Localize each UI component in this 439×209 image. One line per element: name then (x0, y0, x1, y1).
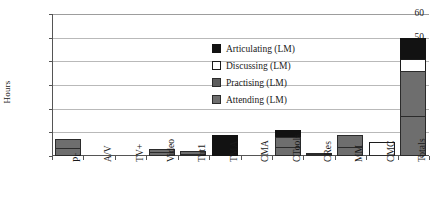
bar-chart: Hours 0102030405060 PrA/VTV+VideoTut1TMA… (0, 0, 439, 209)
x-tick-mark (115, 156, 116, 160)
legend-item: Practising (LM) (212, 74, 352, 91)
x-tick-label: CRes (323, 141, 333, 162)
gridline (52, 38, 429, 39)
legend-label: Articulating (LM) (226, 44, 295, 54)
x-tick-label: Pr (72, 153, 82, 162)
legend-swatch-discussing (212, 61, 221, 70)
x-tick-mark (366, 156, 367, 160)
x-tick-label: MM (354, 145, 364, 162)
x-tick-mark (429, 156, 430, 160)
legend-item: Articulating (LM) (212, 40, 352, 57)
x-tick-mark (241, 156, 242, 160)
y-axis-title: Hours (2, 62, 12, 122)
x-tick-label: A/V (103, 145, 113, 162)
legend-swatch-attending (212, 95, 221, 104)
y-tick-mark (49, 109, 53, 110)
legend-swatch-practising (212, 78, 221, 87)
gridline (52, 14, 429, 15)
y-tick-mark (49, 38, 53, 39)
x-tick-mark (83, 156, 84, 160)
y-tick-label: 60 (394, 9, 424, 19)
x-tick-label: Tut1 (197, 144, 207, 162)
legend-label: Practising (LM) (226, 78, 287, 88)
legend-item: Discussing (LM) (212, 57, 352, 74)
x-tick-label: TV+ (135, 144, 145, 162)
y-tick-mark (49, 132, 53, 133)
x-tick-mark (146, 156, 147, 160)
legend-swatch-articulating (212, 44, 221, 53)
x-tick-label: CMC (386, 141, 396, 162)
gridline (52, 109, 429, 110)
legend-label: Discussing (LM) (226, 61, 291, 71)
x-tick-mark (303, 156, 304, 160)
chart-legend: Articulating (LM)Discussing (LM)Practisi… (212, 40, 352, 108)
legend-item: Attending (LM) (212, 91, 352, 108)
x-tick-label: TMA (229, 141, 239, 162)
x-tick-mark (398, 156, 399, 160)
y-tick-mark (49, 61, 53, 62)
y-tick-mark (49, 85, 53, 86)
x-tick-mark (178, 156, 179, 160)
bar-segment-discussing (400, 59, 426, 71)
legend-label: Attending (LM) (226, 95, 287, 105)
bar-segment-practising (400, 71, 426, 116)
x-tick-label: CMA (260, 140, 270, 162)
bar-segment-practising (55, 139, 81, 147)
x-tick-mark (272, 156, 273, 160)
x-tick-mark (209, 156, 210, 160)
gridline (52, 132, 429, 133)
bar-segment-articulating (400, 38, 426, 59)
x-tick-label: CTools (292, 134, 302, 162)
x-tick-label: Totals (417, 138, 427, 162)
y-tick-mark (49, 14, 53, 15)
x-tick-mark (52, 156, 53, 160)
x-tick-label: Video (166, 139, 176, 162)
x-tick-mark (335, 156, 336, 160)
